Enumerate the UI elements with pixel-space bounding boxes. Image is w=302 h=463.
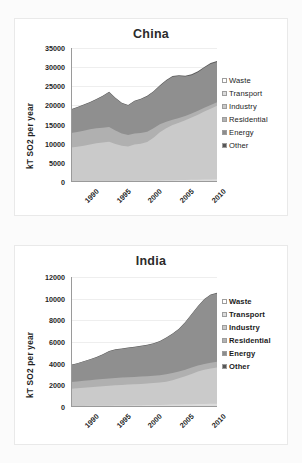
legend-item-label: Transport: [229, 89, 262, 98]
legend-item-energy[interactable]: Energy: [222, 126, 268, 138]
legend-item-industry[interactable]: Industry: [222, 100, 268, 112]
x-tick-label: 1990: [83, 412, 101, 430]
stacked-area-series-group: [71, 277, 217, 407]
y-tick-label: 25000: [31, 82, 65, 91]
x-axis-line: [71, 406, 217, 407]
y-tick-label: 20000: [31, 101, 65, 110]
legend-item-transport[interactable]: Transport: [222, 308, 271, 320]
x-tick-label: 1995: [115, 187, 133, 205]
legend-item-energy[interactable]: Energy: [222, 347, 271, 359]
y-axis-ticks-india: 120001000080006000400020000: [31, 246, 65, 444]
legend-china: WasteTransportIndustryResidentialEnergyO…: [222, 74, 268, 152]
legend-swatch-icon: [222, 299, 227, 304]
legend-swatch-icon: [222, 91, 227, 96]
legend-item-transport[interactable]: Transport: [222, 87, 268, 99]
y-tick-label: 4000: [31, 359, 65, 368]
y-tick-label: 10000: [31, 294, 65, 303]
y-axis-ticks-china: 35000300002500020000150001000050000: [31, 19, 65, 215]
y-tick-label: 0: [31, 403, 65, 412]
legend-item-other[interactable]: Other: [222, 360, 271, 372]
legend-item-other[interactable]: Other: [222, 139, 268, 151]
legend-item-industry[interactable]: Industry: [222, 321, 271, 333]
x-tick-label: 2000: [146, 187, 164, 205]
x-tick-label: 2005: [178, 412, 196, 430]
legend-india: WasteTransportIndustryResidentialEnergyO…: [222, 295, 271, 373]
legend-item-label: Other: [229, 362, 250, 371]
chart-panel-china: China kT SO2 per year 350003000025000200…: [14, 18, 288, 216]
x-tick-label: 2010: [210, 187, 228, 205]
legend-item-label: Waste: [229, 76, 251, 85]
legend-item-waste[interactable]: Waste: [222, 295, 271, 307]
legend-item-label: Industry: [229, 323, 260, 332]
legend-swatch-icon: [222, 338, 227, 343]
chart-panel-india: India kT SO2 per year 120001000080006000…: [14, 245, 288, 445]
y-tick-label: 30000: [31, 63, 65, 72]
x-tick-label: 2010: [210, 412, 228, 430]
legend-swatch-icon: [222, 78, 227, 83]
y-tick-label: 10000: [31, 139, 65, 148]
legend-item-label: Transport: [229, 310, 265, 319]
y-tick-label: 2000: [31, 381, 65, 390]
legend-swatch-icon: [222, 351, 227, 356]
y-tick-label: 5000: [31, 158, 65, 167]
legend-swatch-icon: [222, 312, 227, 317]
legend-item-label: Residential: [229, 115, 268, 124]
x-tick-label: 1995: [115, 412, 133, 430]
figure-page: China kT SO2 per year 350003000025000200…: [0, 0, 302, 463]
y-axis-line: [71, 277, 72, 407]
y-tick-label: 8000: [31, 316, 65, 325]
plot-area-china: [71, 48, 217, 182]
legend-swatch-icon: [222, 117, 227, 122]
y-tick-label: 0: [31, 178, 65, 187]
legend-item-label: Residential: [229, 336, 271, 345]
legend-item-label: Energy: [229, 128, 254, 137]
legend-item-label: Energy: [229, 349, 255, 358]
y-axis-line: [71, 48, 72, 182]
legend-item-waste[interactable]: Waste: [222, 74, 268, 86]
y-tick-label: 15000: [31, 120, 65, 129]
legend-item-residential[interactable]: Residential: [222, 113, 268, 125]
legend-item-label: Other: [229, 141, 249, 150]
legend-item-label: Waste: [229, 297, 252, 306]
legend-swatch-icon: [222, 130, 227, 135]
legend-swatch-icon: [222, 325, 227, 330]
legend-swatch-icon: [222, 104, 227, 109]
x-tick-label: 1990: [83, 187, 101, 205]
legend-item-residential[interactable]: Residential: [222, 334, 271, 346]
y-tick-label: 6000: [31, 338, 65, 347]
plot-area-india: [71, 277, 217, 407]
x-tick-label: 2000: [146, 412, 164, 430]
legend-swatch-icon: [222, 364, 227, 369]
legend-item-label: Industry: [229, 102, 257, 111]
x-tick-label: 2005: [178, 187, 196, 205]
y-tick-label: 35000: [31, 44, 65, 53]
y-tick-label: 12000: [31, 273, 65, 282]
x-axis-ticks-india: 19901995200020052010: [71, 409, 217, 439]
stacked-area-series-group: [71, 48, 217, 182]
x-axis-line: [71, 181, 217, 182]
legend-swatch-icon: [222, 143, 227, 148]
x-axis-ticks-china: 19901995200020052010: [71, 184, 217, 214]
